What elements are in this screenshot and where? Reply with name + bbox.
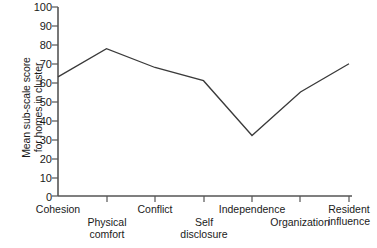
- x-tick-label-self-disclosure: Self disclosure: [180, 216, 227, 240]
- y-axis: [52, 7, 58, 196]
- line-chart: Mean sub-scale score for homes in cluste…: [0, 0, 377, 248]
- data-series-line: [58, 49, 349, 136]
- x-tick-label-physical-comfort: Physical comfort: [87, 216, 126, 240]
- x-tick-label-cohesion: Cohesion: [36, 203, 80, 215]
- x-axis: [58, 196, 352, 202]
- x-tick-label-resident-influence: Resident influence: [328, 203, 370, 227]
- x-tick-label-independence: Independence: [219, 203, 286, 215]
- x-tick-label-conflict: Conflict: [137, 203, 172, 215]
- x-tick-label-organization: Organization: [270, 216, 330, 228]
